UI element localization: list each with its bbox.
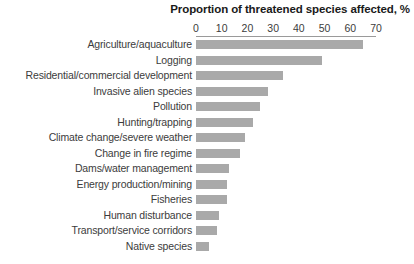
category-label: Climate change/severe weather bbox=[49, 131, 192, 143]
bar-track bbox=[196, 133, 406, 142]
bar bbox=[196, 164, 229, 173]
bar bbox=[196, 71, 283, 80]
category-label: Fisheries bbox=[151, 193, 192, 205]
bar-row: Agriculture/aquaculture bbox=[0, 38, 414, 54]
category-label: Human disturbance bbox=[104, 209, 193, 221]
x-axis-line bbox=[196, 36, 376, 37]
x-tick-label: 60 bbox=[344, 22, 356, 34]
bar bbox=[196, 195, 227, 204]
category-label: Logging bbox=[156, 54, 192, 66]
category-label: Residential/commercial development bbox=[26, 69, 192, 81]
x-axis-ticks: 010203040506070 bbox=[196, 22, 396, 36]
bar-track bbox=[196, 211, 406, 220]
bar-row: Energy production/mining bbox=[0, 178, 414, 194]
bar-row: Hunting/trapping bbox=[0, 116, 414, 132]
bar-track bbox=[196, 242, 406, 251]
category-label: Native species bbox=[126, 240, 192, 252]
bar-track bbox=[196, 87, 406, 96]
bar-row: Invasive alien species bbox=[0, 85, 414, 101]
bar-track bbox=[196, 40, 406, 49]
bar bbox=[196, 149, 240, 158]
bar bbox=[196, 87, 268, 96]
bar-track bbox=[196, 226, 406, 235]
category-label: Invasive alien species bbox=[93, 85, 192, 97]
category-label: Dams/water management bbox=[75, 162, 192, 174]
x-tick-label: 0 bbox=[193, 22, 199, 34]
bar bbox=[196, 242, 209, 251]
bar-track bbox=[196, 149, 406, 158]
x-tick-label: 30 bbox=[267, 22, 279, 34]
bar bbox=[196, 226, 217, 235]
bar bbox=[196, 56, 322, 65]
bar-track bbox=[196, 164, 406, 173]
bar-row: Human disturbance bbox=[0, 209, 414, 225]
bar-track bbox=[196, 180, 406, 189]
category-label: Agriculture/aquaculture bbox=[87, 38, 192, 50]
bar-track bbox=[196, 195, 406, 204]
bar-track bbox=[196, 56, 406, 65]
bar-row: Logging bbox=[0, 54, 414, 70]
bar-track bbox=[196, 71, 406, 80]
bar-row: Climate change/severe weather bbox=[0, 131, 414, 147]
x-tick-label: 40 bbox=[293, 22, 305, 34]
bar-track bbox=[196, 118, 406, 127]
bar bbox=[196, 118, 253, 127]
bar bbox=[196, 211, 219, 220]
bar-chart: Proportion of threatened species affecte… bbox=[0, 0, 414, 264]
bar-row: Transport/service corridors bbox=[0, 224, 414, 240]
bar-row: Dams/water management bbox=[0, 162, 414, 178]
bar bbox=[196, 180, 227, 189]
bar bbox=[196, 102, 260, 111]
x-tick-label: 20 bbox=[242, 22, 254, 34]
bar-row: Native species bbox=[0, 240, 414, 256]
bar bbox=[196, 40, 363, 49]
category-label: Pollution bbox=[153, 100, 192, 112]
bar bbox=[196, 133, 245, 142]
x-tick-label: 70 bbox=[370, 22, 382, 34]
x-tick-label: 50 bbox=[319, 22, 331, 34]
bar-row: Pollution bbox=[0, 100, 414, 116]
category-label: Energy production/mining bbox=[77, 178, 192, 190]
bar-row: Change in fire regime bbox=[0, 147, 414, 163]
chart-title: Proportion of threatened species affecte… bbox=[0, 3, 410, 15]
category-label: Change in fire regime bbox=[95, 147, 192, 159]
category-label: Hunting/trapping bbox=[117, 116, 192, 128]
x-tick-label: 10 bbox=[216, 22, 228, 34]
bar-row: Fisheries bbox=[0, 193, 414, 209]
category-label: Transport/service corridors bbox=[72, 224, 192, 236]
bar-row: Residential/commercial development bbox=[0, 69, 414, 85]
bar-rows: Agriculture/aquacultureLoggingResidentia… bbox=[0, 38, 414, 255]
bar-track bbox=[196, 102, 406, 111]
